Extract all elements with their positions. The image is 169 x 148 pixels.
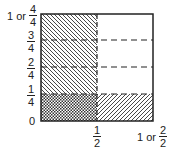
overlap-region	[41, 94, 97, 121]
denominator: 4	[28, 43, 34, 53]
y-label-one-quarter: 1 4	[27, 84, 35, 107]
x-label-one: 1 or 2 2	[137, 125, 167, 148]
y-label-zero: 0	[29, 116, 35, 127]
left-half-region	[41, 14, 97, 94]
fraction: 2 2	[159, 125, 167, 148]
fraction: 4 4	[29, 4, 37, 27]
numerator: 2	[28, 57, 34, 67]
label-prefix: 1 or	[137, 131, 156, 143]
numerator: 1	[28, 84, 34, 94]
numerator: 2	[160, 125, 166, 135]
denominator: 4	[28, 70, 34, 80]
x-label-half: 1 2	[93, 125, 101, 148]
label-prefix: 1 or	[7, 10, 26, 22]
denominator: 2	[160, 138, 166, 148]
bottom-right-region	[97, 94, 153, 121]
denominator: 4	[28, 97, 34, 107]
denominator: 4	[30, 17, 36, 27]
y-label-one: 1 or 4 4	[7, 4, 37, 27]
numerator: 4	[30, 4, 36, 14]
numerator: 3	[28, 30, 34, 40]
numerator: 1	[94, 125, 100, 135]
denominator: 2	[94, 138, 100, 148]
y-label-three-quarters: 3 4	[27, 30, 35, 53]
y-label-two-quarters: 2 4	[27, 57, 35, 80]
